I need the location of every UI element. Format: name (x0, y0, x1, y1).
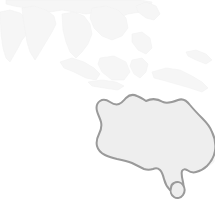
map-thumbnail[interactable]: World map thumbnail centred on Australia (0, 0, 215, 217)
world-map-svg[interactable] (0, 0, 215, 217)
tasmania-shape[interactable] (171, 182, 185, 198)
